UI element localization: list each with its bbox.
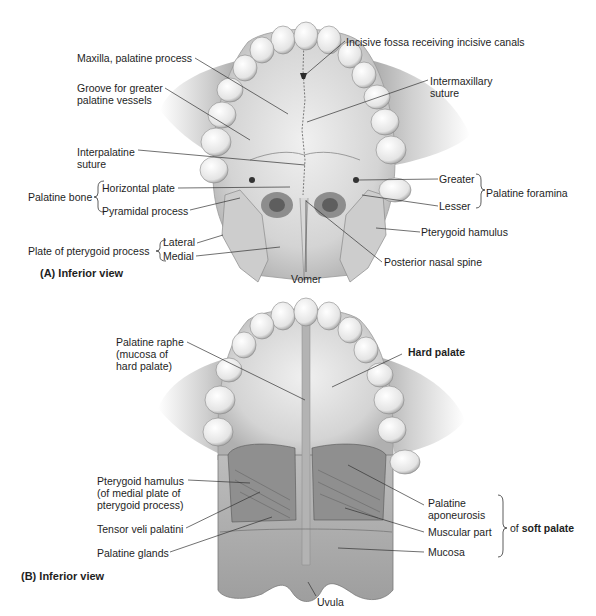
- label-groove-greater-palatine-line2: palatine vessels: [77, 94, 152, 106]
- label-greater: Greater: [439, 173, 475, 185]
- palate-anatomy-figure: Maxilla, palatine process Groove for gre…: [0, 0, 596, 616]
- label-pterygoid-hamulus-b-line3: pterygoid process): [97, 499, 183, 511]
- label-uvula: Uvula: [317, 596, 344, 608]
- label-muscular-part: Muscular part: [428, 526, 492, 538]
- label-of-soft-palate: of soft palate: [510, 522, 574, 534]
- label-pyramidal-process: Pyramidal process: [102, 205, 188, 217]
- label-maxilla-palatine-process: Maxilla, palatine process: [77, 52, 192, 64]
- panel-b-drawing: [158, 298, 465, 602]
- label-palatine-raphe-line2: (mucosa of: [116, 348, 168, 360]
- label-palatine-aponeurosis-line1: Palatine: [428, 497, 466, 509]
- label-lesser: Lesser: [439, 200, 471, 212]
- label-groove-greater-palatine-line1: Groove for greater: [77, 82, 163, 94]
- label-palatine-foramina: Palatine foramina: [486, 187, 568, 199]
- label-tensor-veli-palatini: Tensor veli palatini: [97, 523, 183, 535]
- label-palatine-raphe-line3: hard palate): [116, 360, 172, 372]
- label-pterygoid-hamulus-b-line1: Pterygoid hamulus: [97, 475, 184, 487]
- label-intermaxillary-suture-line2: suture: [430, 87, 459, 99]
- label-plate-pterygoid-process: Plate of pterygoid process: [28, 245, 149, 257]
- label-pterygoid-hamulus: Pterygoid hamulus: [421, 226, 508, 238]
- label-interpalatine-suture-line2: suture: [77, 158, 106, 170]
- caption-panel-a: (A) Inferior view: [40, 267, 123, 279]
- label-mucosa: Mucosa: [428, 546, 465, 558]
- label-horizontal-plate: Horizontal plate: [102, 182, 175, 194]
- label-pterygoid-hamulus-b-line2: (of medial plate of: [97, 487, 180, 499]
- label-soft-palate: soft palate: [522, 522, 575, 534]
- label-medial: Medial: [163, 250, 194, 262]
- label-posterior-nasal-spine: Posterior nasal spine: [384, 256, 482, 268]
- label-hard-palate: Hard palate: [408, 346, 465, 358]
- label-of: of: [510, 522, 519, 534]
- label-vomer: Vomer: [291, 273, 321, 285]
- label-intermaxillary-suture-line1: Intermaxillary: [430, 75, 492, 87]
- label-palatine-bone: Palatine bone: [28, 191, 92, 203]
- label-palatine-raphe-line1: Palatine raphe: [116, 336, 184, 348]
- label-palatine-glands: Palatine glands: [97, 547, 169, 559]
- label-palatine-aponeurosis-line2: aponeurosis: [428, 509, 485, 521]
- label-interpalatine-suture-line1: Interpalatine: [77, 146, 135, 158]
- caption-panel-b: (B) Inferior view: [21, 570, 104, 582]
- label-incisive-fossa: Incisive fossa receiving incisive canals: [346, 36, 525, 48]
- panel-a-drawing: [160, 22, 470, 282]
- soft-palate-brace: [498, 495, 507, 557]
- label-lateral: Lateral: [163, 236, 195, 248]
